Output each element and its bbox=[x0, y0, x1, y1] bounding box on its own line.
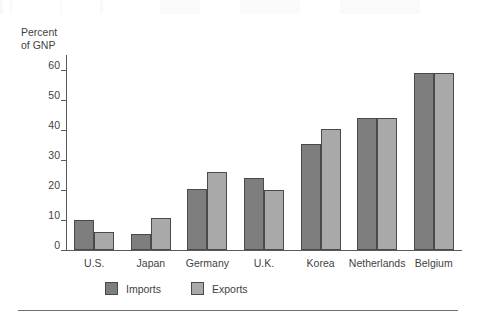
bar-group bbox=[74, 55, 114, 250]
bar-group bbox=[357, 55, 397, 250]
x-label-uk: U.K. bbox=[254, 257, 274, 269]
bar-imports-germany bbox=[187, 189, 207, 251]
y-axis-title: Percent of GNP bbox=[21, 26, 57, 51]
y-tick-0 bbox=[61, 250, 67, 251]
legend-item-exports: Exports bbox=[191, 282, 248, 295]
bottom-divider bbox=[18, 310, 458, 311]
bar-imports-uk bbox=[244, 178, 264, 250]
legend-label-exports: Exports bbox=[212, 283, 248, 295]
bar-exports-germany bbox=[207, 172, 227, 250]
y-tick-label-40: 40 bbox=[20, 119, 60, 131]
bar-exports-japan bbox=[151, 218, 171, 250]
bar-imports-japan bbox=[131, 234, 151, 251]
bar-exports-us bbox=[94, 232, 114, 250]
chart-legend: Imports Exports bbox=[105, 282, 248, 295]
y-tick-label-10: 10 bbox=[20, 209, 60, 221]
bar-imports-korea bbox=[301, 144, 321, 251]
y-tick-label-20: 20 bbox=[20, 179, 60, 191]
legend-item-imports: Imports bbox=[105, 282, 161, 295]
x-label-germany: Germany bbox=[186, 257, 229, 269]
y-tick-label-60: 60 bbox=[20, 59, 60, 71]
y-tick-label-50: 50 bbox=[20, 89, 60, 101]
x-label-belgium: Belgium bbox=[415, 257, 453, 269]
x-axis-line bbox=[66, 250, 462, 251]
bar-group bbox=[131, 55, 171, 250]
plot-area: 0102030405060 U.S.JapanGermanyU.K.KoreaN… bbox=[66, 55, 462, 251]
bar-imports-us bbox=[74, 220, 94, 250]
bar-group bbox=[414, 55, 454, 250]
legend-label-imports: Imports bbox=[126, 283, 161, 295]
y-tick-label-30: 30 bbox=[20, 149, 60, 161]
bar-exports-korea bbox=[321, 129, 341, 251]
x-label-japan: Japan bbox=[137, 257, 166, 269]
bar-group bbox=[244, 55, 284, 250]
bar-series-container bbox=[66, 55, 462, 250]
bar-group bbox=[301, 55, 341, 250]
y-tick-label-0: 0 bbox=[20, 239, 60, 251]
x-label-us: U.S. bbox=[84, 257, 104, 269]
bar-exports-netherlands bbox=[377, 118, 397, 250]
legend-swatch-imports bbox=[105, 282, 118, 295]
bar-chart: Percent of GNP 0102030405060 U.S.JapanGe… bbox=[0, 0, 477, 325]
x-label-korea: Korea bbox=[307, 257, 335, 269]
bar-exports-belgium bbox=[434, 73, 454, 250]
bar-group bbox=[187, 55, 227, 250]
x-label-netherlands: Netherlands bbox=[349, 257, 406, 269]
bar-imports-belgium bbox=[414, 73, 434, 250]
bar-imports-netherlands bbox=[357, 118, 377, 250]
bar-exports-uk bbox=[264, 190, 284, 250]
legend-swatch-exports bbox=[191, 282, 204, 295]
